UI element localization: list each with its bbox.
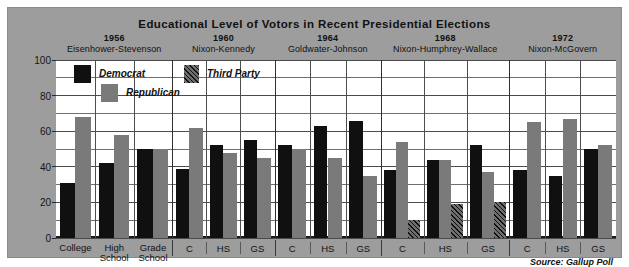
category-divider [424, 60, 425, 238]
group-candidates-label: Nixon-McGovern [509, 44, 616, 55]
y-axis-tick-label: 40 [40, 161, 51, 172]
y-axis-tick-label: 20 [40, 197, 51, 208]
x-axis-category-divider [346, 242, 347, 254]
x-axis-label: GS [467, 243, 510, 254]
legend-label-dem: Democrat [99, 68, 145, 79]
group-divider [381, 60, 382, 238]
y-axis-tick-mark [52, 202, 56, 203]
group-year-label: 1972 [509, 33, 616, 44]
bar-dem [210, 145, 223, 238]
y-axis-tick-mark [52, 95, 56, 96]
gridline [56, 60, 616, 61]
x-axis-label: C [509, 243, 545, 254]
legend-label-rep: Republican [126, 87, 180, 98]
group-year-label: 1964 [275, 33, 382, 44]
group-divider [509, 60, 510, 238]
x-axis-label: HS [206, 243, 240, 254]
x-axis-label: C [275, 243, 311, 254]
bar-rep [153, 149, 168, 238]
x-axis-label: C [172, 243, 206, 254]
y-axis-tick-label: 100 [34, 55, 51, 66]
legend-swatch-dem [74, 65, 91, 83]
group-divider [275, 60, 276, 238]
x-axis-category-divider [580, 242, 581, 254]
legend-swatch-third [184, 65, 199, 83]
category-divider [346, 60, 347, 238]
bar-rep [75, 117, 90, 238]
bar-rep [482, 172, 494, 238]
bar-dem [99, 163, 114, 238]
x-axis-label: HS [424, 243, 467, 254]
group-header-1972: 1972Nixon-McGovern [509, 33, 616, 55]
group-candidates-label: Nixon-Humphrey-Wallace [381, 44, 509, 55]
x-axis-group-divider [275, 240, 276, 256]
x-axis-label: GS [240, 243, 274, 254]
bar-dem [176, 169, 189, 238]
chart-title: Educational Level of Votors in Recent Pr… [7, 18, 622, 30]
bar-dem [137, 149, 152, 238]
group-year-label: 1956 [56, 33, 172, 44]
x-axis-group-divider [381, 240, 382, 256]
x-axis-label-line1: College [56, 243, 95, 253]
bar-dem [584, 149, 598, 238]
bar-dem [427, 160, 439, 238]
plot-area: 020406080100DemocratRepublicanThird Part… [56, 60, 616, 238]
bar-dem [513, 170, 527, 238]
bar-rep [114, 135, 129, 238]
category-divider [206, 60, 207, 238]
bar-rep [396, 142, 408, 238]
bar-rep [527, 122, 541, 238]
source-note: Source: Gallup Poll [530, 257, 613, 267]
x-axis-group-divider [509, 240, 510, 256]
x-axis-label: College [56, 243, 95, 253]
bar-rep [439, 160, 451, 238]
group-candidates-label: Nixon-Kennedy [172, 44, 274, 55]
chart-root: Educational Level of Votors in Recent Pr… [0, 0, 629, 267]
x-axis-group-divider [172, 240, 173, 256]
gridline [56, 113, 616, 114]
x-axis-category-divider [424, 242, 425, 254]
x-axis-category-divider [467, 242, 468, 254]
poster-panel: Educational Level of Votors in Recent Pr… [7, 7, 622, 258]
x-axis-label-band: CollegeHighSchoolGradeSchoolCHSGSCHSGSCH… [7, 240, 622, 267]
group-candidates-label: Eisenhower-Stevenson [56, 44, 172, 55]
bar-rep [223, 153, 236, 238]
x-axis-label-line2: School [95, 253, 134, 263]
bar-dem [60, 183, 75, 238]
category-divider [580, 60, 581, 238]
bar-dem [244, 140, 257, 238]
x-axis-label: GS [580, 243, 616, 254]
bar-dem [470, 145, 482, 238]
category-divider [545, 60, 546, 238]
bar-third [408, 220, 420, 238]
group-header-band: 1956Eisenhower-Stevenson1960Nixon-Kenned… [7, 33, 622, 63]
bar-third [451, 204, 463, 238]
x-axis-label: HighSchool [95, 243, 134, 263]
x-axis-category-divider [240, 242, 241, 254]
y-axis-tick-mark [52, 166, 56, 167]
bar-dem [384, 170, 396, 238]
x-axis-label-line2: School [134, 253, 173, 263]
bar-rep [363, 176, 377, 238]
bar-rep [292, 149, 306, 238]
x-axis-label: GradeSchool [134, 243, 173, 263]
bar-dem [549, 176, 563, 238]
bar-third [494, 202, 506, 238]
bar-rep [563, 119, 577, 238]
group-header-1956: 1956Eisenhower-Stevenson [56, 33, 172, 55]
category-divider [240, 60, 241, 238]
category-divider [310, 60, 311, 238]
bar-rep [189, 128, 202, 238]
y-axis-tick-mark [52, 131, 56, 132]
x-axis-label: HS [545, 243, 581, 254]
x-axis-category-divider [310, 242, 311, 254]
x-axis-category-divider [206, 242, 207, 254]
legend-label-third: Third Party [207, 68, 260, 79]
group-header-1964: 1964Goldwater-Johnson [275, 33, 382, 55]
x-axis-category-divider [545, 242, 546, 254]
x-axis-label: GS [346, 243, 382, 254]
group-header-1960: 1960Nixon-Kennedy [172, 33, 274, 55]
bar-rep [257, 158, 270, 238]
group-year-label: 1960 [172, 33, 274, 44]
y-axis-tick-label: 60 [40, 126, 51, 137]
